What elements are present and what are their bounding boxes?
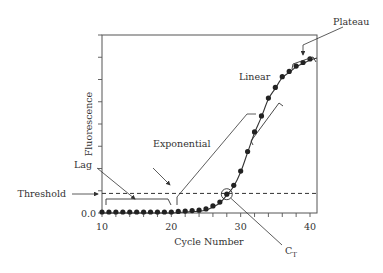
data-point (280, 74, 285, 79)
data-point (273, 85, 278, 90)
data-point (190, 208, 195, 213)
x-tick-label: 10 (96, 221, 108, 232)
plot-frame (102, 35, 317, 213)
linear-label: Linear (239, 71, 271, 82)
data-point (162, 209, 167, 214)
data-point (169, 209, 174, 214)
y-axis-label: Fluorescence (83, 91, 94, 156)
ct-label-subscript: T (292, 251, 297, 259)
data-point (99, 209, 104, 214)
data-point (155, 209, 160, 214)
data-point (224, 192, 229, 197)
y-zero-label: 0.0 (81, 208, 96, 219)
data-point (245, 149, 250, 154)
x-axis-label: Cycle Number (174, 236, 244, 247)
plateau-leader (303, 27, 343, 45)
data-point (238, 168, 243, 173)
exponential-leader-line (177, 114, 247, 197)
data-point (259, 113, 264, 118)
data-point (210, 203, 215, 208)
ct-label-main: C (285, 245, 292, 256)
data-point (217, 199, 222, 204)
exponential-label: Exponential (153, 138, 211, 149)
data-point (141, 209, 146, 214)
pcr-amplification-chart: 10203040 Lag Exponential Linear Plateau … (0, 0, 383, 273)
data-point (134, 209, 139, 214)
data-point (196, 208, 201, 213)
lag-leader (97, 168, 135, 199)
x-tick-label: 30 (235, 221, 247, 232)
y-axis-ticks (98, 35, 102, 213)
lag-bracket (106, 199, 171, 205)
data-point (294, 63, 299, 68)
fitted-curve (102, 58, 317, 213)
data-point (231, 183, 236, 188)
data-point (148, 209, 153, 214)
ct-label: CT (285, 245, 297, 259)
lag-label: Lag (74, 159, 92, 170)
data-point (287, 69, 292, 74)
data-point (183, 209, 188, 214)
data-point (113, 209, 118, 214)
data-point (127, 209, 132, 214)
x-axis-tick-labels: 10203040 (96, 221, 316, 232)
linear-bracket (251, 103, 283, 145)
x-tick-label: 20 (165, 221, 177, 232)
data-point (266, 95, 271, 100)
data-point (106, 209, 111, 214)
data-point (203, 206, 208, 211)
x-axis-ticks (102, 213, 310, 217)
data-point (120, 209, 125, 214)
exponential-leader-arrow (153, 168, 170, 185)
x-tick-label: 40 (304, 221, 316, 232)
threshold-label: Threshold (18, 188, 66, 199)
plateau-label: Plateau (333, 16, 369, 27)
data-point (176, 209, 181, 214)
